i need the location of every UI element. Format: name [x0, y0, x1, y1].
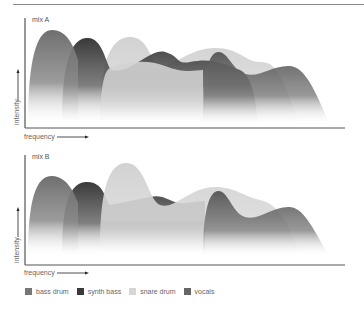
- series-bass-drum-b: [28, 176, 78, 257]
- x-axis-label-a: frequency: [24, 133, 55, 140]
- spectrum-plot-b: [0, 145, 364, 285]
- legend-swatch-synth-bass: [77, 288, 84, 295]
- panel-title-a: mix A: [32, 16, 49, 23]
- chart-mix-a: mix A intensity frequency: [0, 0, 364, 145]
- legend-item-synth-bass: synth bass: [77, 288, 121, 295]
- legend-item-bass-drum: bass drum: [25, 288, 69, 295]
- legend-label: snare drum: [140, 288, 175, 295]
- legend-label: synth bass: [88, 288, 121, 295]
- legend-swatch-snare-drum: [129, 288, 136, 295]
- x-axis-label-b: frequency: [24, 269, 55, 276]
- series-vocals-b: [203, 191, 330, 257]
- legend: bass drum synth bass snare drum vocals: [25, 288, 214, 295]
- y-axis-label-a: intensity: [13, 99, 20, 125]
- series-snare-drum-a-front: [100, 62, 203, 125]
- series-bass-drum-a: [28, 30, 78, 125]
- legend-label: vocals: [195, 288, 215, 295]
- y-axis-label-b: intensity: [13, 237, 20, 263]
- legend-item-snare-drum: snare drum: [129, 288, 175, 295]
- legend-swatch-bass-drum: [25, 288, 32, 295]
- legend-label: bass drum: [36, 288, 69, 295]
- spectrum-plot-a: [0, 0, 364, 145]
- chart-mix-b: mix B intensity frequency: [0, 145, 364, 285]
- legend-item-vocals: vocals: [184, 288, 215, 295]
- legend-swatch-vocals: [184, 288, 191, 295]
- panel-title-b: mix B: [32, 153, 50, 160]
